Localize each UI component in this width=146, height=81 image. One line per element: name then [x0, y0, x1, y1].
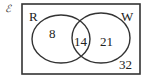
intersection-value: 14 [74, 34, 88, 49]
set-r-label: R [29, 9, 38, 24]
universal-set-symbol: ℰ [5, 3, 12, 14]
outside-value: 32 [119, 57, 132, 72]
set-w-label: W [121, 9, 134, 24]
venn-diagram: ℰ R W 8 14 21 32 [0, 0, 146, 81]
r-only-value: 8 [49, 26, 56, 41]
w-only-value: 21 [100, 34, 113, 49]
